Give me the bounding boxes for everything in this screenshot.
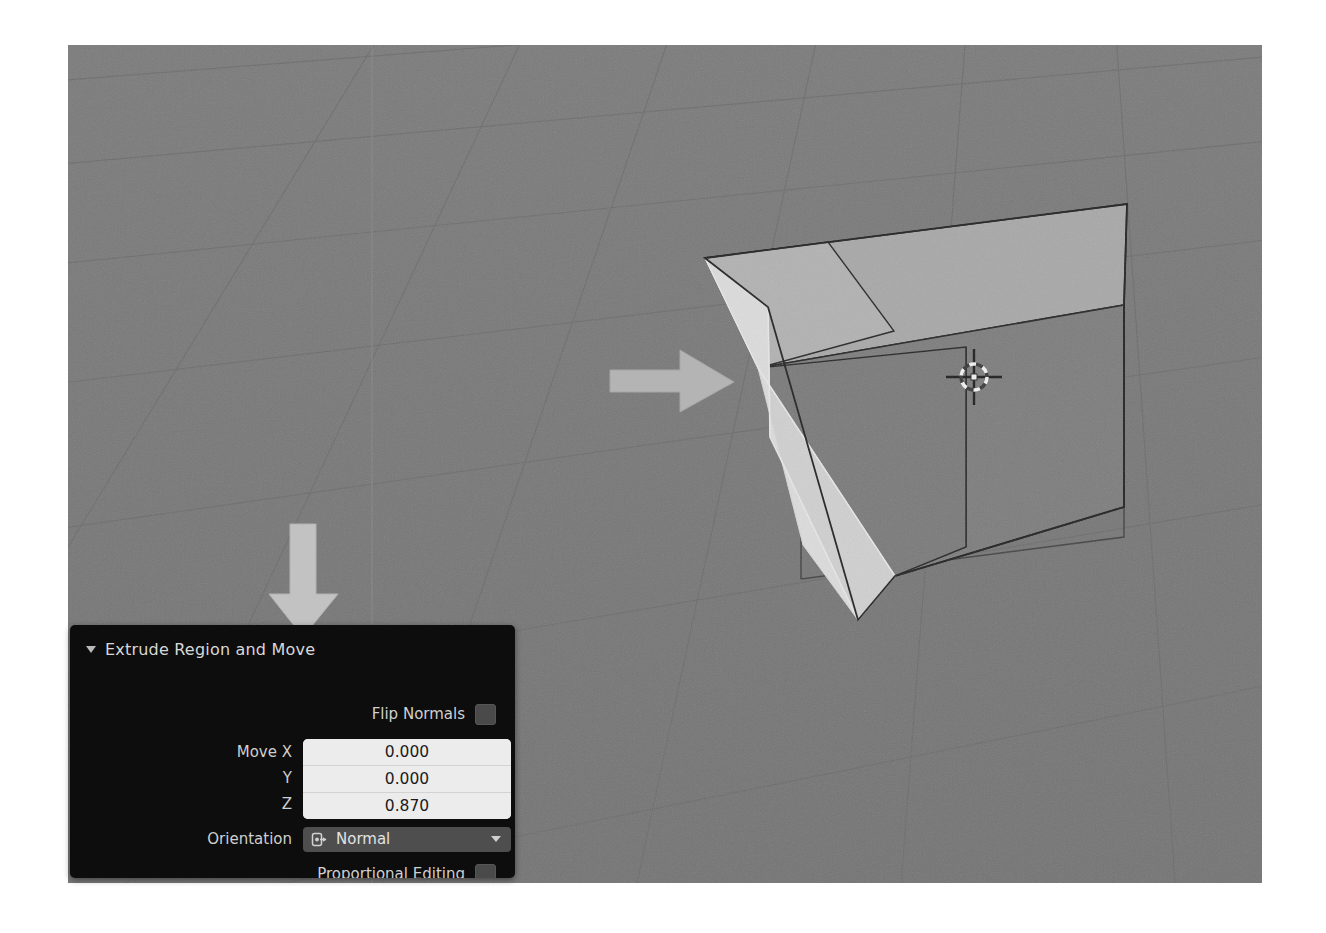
orientation-row[interactable]: Orientation Normal bbox=[86, 826, 499, 852]
move-z-field[interactable]: 0.870 bbox=[303, 792, 511, 819]
proportional-editing-checkbox[interactable] bbox=[475, 864, 496, 879]
move-vector-labels: Move X Y Z bbox=[86, 739, 303, 817]
move-vector-row[interactable]: Move X Y Z 0.000 0.000 0.870 bbox=[86, 739, 499, 819]
orientation-label: Orientation bbox=[86, 830, 303, 848]
move-x-label: Move X bbox=[86, 739, 292, 765]
move-y-label: Y bbox=[86, 765, 292, 791]
move-y-field[interactable]: 0.000 bbox=[303, 765, 511, 792]
move-x-field[interactable]: 0.000 bbox=[303, 739, 511, 765]
flip-normals-row[interactable]: Flip Normals bbox=[86, 701, 499, 727]
redo-panel-title: Extrude Region and Move bbox=[105, 640, 315, 659]
flip-normals-label: Flip Normals bbox=[372, 705, 465, 723]
redo-panel-body: Flip Normals Move X Y Z 0.000 0.000 0.87… bbox=[70, 663, 515, 878]
orientation-value: Normal bbox=[336, 830, 483, 848]
redo-panel[interactable]: Extrude Region and Move Flip Normals Mov… bbox=[70, 625, 515, 878]
orientation-dropdown[interactable]: Normal bbox=[303, 827, 511, 852]
disclosure-triangle-down-icon[interactable] bbox=[86, 646, 96, 653]
move-z-label: Z bbox=[86, 791, 292, 817]
screenshot-root: Extrude Region and Move Flip Normals Mov… bbox=[0, 0, 1326, 933]
proportional-editing-row[interactable]: Proportional Editing bbox=[86, 861, 499, 878]
chevron-down-icon[interactable] bbox=[491, 836, 501, 842]
move-vector-fields[interactable]: 0.000 0.000 0.870 bbox=[303, 739, 511, 819]
redo-panel-header[interactable]: Extrude Region and Move bbox=[70, 625, 515, 663]
flip-normals-checkbox[interactable] bbox=[475, 704, 496, 725]
proportional-editing-label: Proportional Editing bbox=[317, 865, 465, 878]
orientation-normal-icon bbox=[311, 831, 328, 848]
